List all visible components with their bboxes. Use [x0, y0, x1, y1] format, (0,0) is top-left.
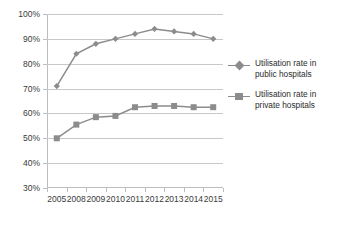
legend-label-private: Utilisation rate in private hospitals — [255, 89, 316, 111]
x-tick-mark — [184, 188, 185, 192]
square-data-point — [73, 122, 79, 128]
square-data-point — [152, 103, 158, 109]
y-tick-label: 80% — [23, 60, 40, 69]
y-tick-label: 70% — [23, 85, 40, 94]
square-data-point — [210, 104, 216, 110]
line-chart: 100%90%80%70%60%50%40%30% 20052008200920… — [0, 0, 358, 230]
legend-item-private: Utilisation rate in private hospitals — [228, 89, 354, 111]
y-tick-label: 50% — [23, 134, 40, 143]
y-tick-label: 40% — [23, 159, 40, 168]
legend-label-private-line2: private hospitals — [255, 100, 315, 110]
series-line — [57, 106, 213, 138]
diamond-marker-icon — [228, 59, 250, 71]
x-tick-mark — [86, 188, 87, 192]
legend-label-public-line1: Utilisation rate in — [255, 58, 316, 68]
x-tick-mark — [47, 188, 48, 192]
diamond-data-point — [210, 36, 216, 42]
y-tick-label: 30% — [23, 184, 40, 193]
x-tick-mark — [164, 188, 165, 192]
x-tick-mark — [125, 188, 126, 192]
square-data-point — [112, 113, 118, 119]
diamond-data-point — [93, 41, 99, 47]
diamond-data-point — [151, 26, 157, 32]
diamond-data-point — [112, 36, 118, 42]
square-data-point — [132, 104, 138, 110]
series-layer — [47, 14, 223, 188]
series-line — [57, 29, 213, 86]
square-marker-icon — [228, 90, 250, 102]
y-tick-label: 90% — [23, 35, 40, 44]
x-tick-mark — [67, 188, 68, 192]
square-data-point — [191, 104, 197, 110]
legend-label-public-line2: public hospitals — [255, 69, 312, 79]
diamond-data-point — [171, 28, 177, 34]
y-tick-label: 100% — [18, 10, 40, 19]
square-data-point — [171, 103, 177, 109]
legend-item-public: Utilisation rate in public hospitals — [228, 58, 354, 80]
diamond-data-point — [191, 31, 197, 37]
legend-label-public: Utilisation rate in public hospitals — [255, 58, 316, 80]
square-data-point — [93, 114, 99, 120]
diamond-data-point — [132, 31, 138, 37]
y-tick-label: 60% — [23, 109, 40, 118]
x-tick-mark — [106, 188, 107, 192]
square-data-point — [54, 135, 60, 141]
x-tick-mark — [203, 188, 204, 192]
x-tick-mark — [223, 188, 224, 192]
chart-legend: Utilisation rate in public hospitals Uti… — [228, 58, 354, 120]
plot-area — [47, 14, 223, 188]
legend-label-private-line1: Utilisation rate in — [255, 89, 316, 99]
x-tick-mark — [145, 188, 146, 192]
x-tick-label: 2015 — [200, 195, 226, 204]
